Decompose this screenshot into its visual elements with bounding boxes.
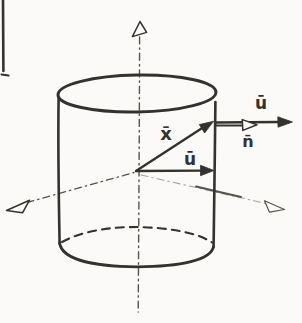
right-axis-line: [141, 175, 266, 204]
x-vector-label: x̄: [160, 123, 172, 144]
vertical-axis-arrowhead-icon: [132, 22, 146, 37]
cylinder-top-ellipse: [58, 74, 217, 114]
u-vector-outer-label: ū: [255, 93, 267, 113]
n-vector-label: n̄: [242, 132, 253, 151]
x-vector-arrowhead-icon: [199, 121, 213, 133]
cylinder-bottom-front-arc: [60, 243, 214, 267]
left-axis-arrowhead-icon: [7, 200, 30, 213]
vertical-axis-line: [138, 37, 139, 312]
right-axis: [141, 175, 285, 212]
cylinder-bottom-back-arc: [62, 227, 212, 243]
frame-corner-foot: [2, 75, 9, 76]
u-vector-inner-arrowhead-icon: [201, 165, 215, 175]
right-axis-dark-segment: [196, 187, 241, 198]
sketch-page: x̄ ū ū n̄: [0, 0, 302, 323]
right-axis-arrowhead-icon: [265, 201, 285, 212]
cylinder-vector-diagram: x̄ ū ū n̄: [0, 0, 302, 323]
frame-corner: [2, 0, 9, 76]
u-vector-outer-arrowhead-icon: [278, 117, 293, 127]
x-vector: x̄: [136, 121, 214, 171]
n-vector: n̄: [215, 120, 257, 151]
left-axis-line: [27, 173, 134, 203]
cylinder-left-wall: [58, 98, 59, 244]
u-vector-inner-label: ū: [184, 149, 196, 169]
u-vector-outer: ū: [215, 93, 293, 127]
left-axis: [7, 173, 135, 213]
